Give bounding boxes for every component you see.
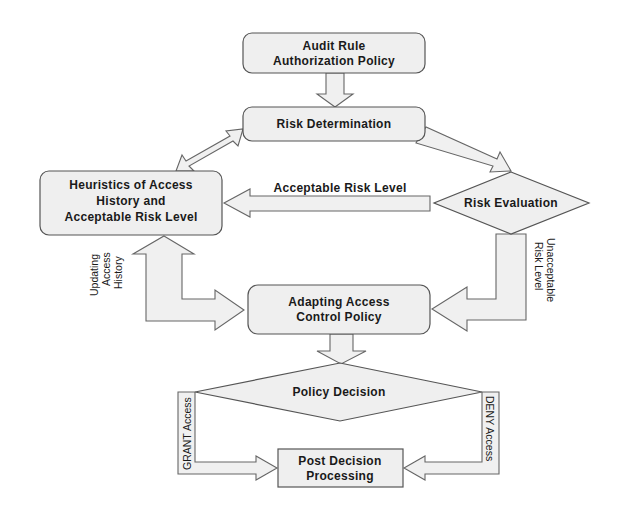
label-acceptable-risk-level: Acceptable Risk Level	[273, 181, 406, 195]
svg-text:Risk Evaluation: Risk Evaluation	[464, 196, 558, 210]
label-grant-access: GRANT Access	[181, 397, 193, 470]
node-risk-determination: Risk Determination	[243, 107, 425, 141]
svg-text:History: History	[112, 256, 124, 289]
svg-text:Unacceptable: Unacceptable	[545, 238, 557, 302]
arrow-unacceptable-risk-level	[432, 234, 526, 331]
node-adapting-access-control-policy: Adapting Access Control Policy	[248, 285, 430, 334]
arrow-audit-to-risk-determination	[317, 73, 353, 107]
arrow-adapting-to-policy-decision	[317, 334, 366, 364]
svg-text:Access: Access	[100, 252, 112, 286]
svg-text:Risk Level: Risk Level	[533, 242, 545, 290]
svg-text:Risk Determination: Risk Determination	[277, 117, 392, 131]
node-audit-rule-authorization-policy: Audit Rule Authorization Policy	[243, 33, 425, 73]
svg-text:Processing: Processing	[306, 469, 374, 483]
arrow-updating-access-history	[133, 236, 244, 330]
svg-text:Post Decision: Post Decision	[298, 454, 381, 468]
label-updating-access-history: Updating Access History	[88, 252, 124, 296]
svg-text:Adapting Access: Adapting Access	[288, 295, 389, 309]
svg-text:Control Policy: Control Policy	[296, 310, 382, 324]
node-risk-evaluation: Risk Evaluation	[434, 172, 589, 234]
node-post-decision-processing: Post Decision Processing	[278, 449, 403, 487]
node-policy-decision: Policy Decision	[195, 363, 482, 421]
access-control-flow-diagram: Acceptable Risk Level Unacceptable Risk …	[0, 0, 624, 507]
svg-text:Authorization Policy: Authorization Policy	[273, 54, 395, 68]
svg-text:Audit Rule: Audit Rule	[303, 39, 366, 53]
label-deny-access: DENY Access	[484, 396, 496, 461]
svg-text:History and: History and	[96, 194, 165, 208]
svg-text:Updating: Updating	[88, 254, 100, 296]
label-unacceptable-risk-level: Unacceptable Risk Level	[533, 238, 557, 302]
svg-text:Acceptable Risk Level: Acceptable Risk Level	[64, 210, 197, 224]
svg-text:Policy Decision: Policy Decision	[292, 385, 385, 399]
arrow-risk-determination-to-evaluation	[416, 127, 511, 172]
arrow-risk-determination-heuristics-bidirectional	[176, 129, 243, 171]
svg-text:Heuristics of Access: Heuristics of Access	[69, 178, 193, 192]
node-heuristics-access-history: Heuristics of Access History and Accepta…	[40, 171, 222, 235]
